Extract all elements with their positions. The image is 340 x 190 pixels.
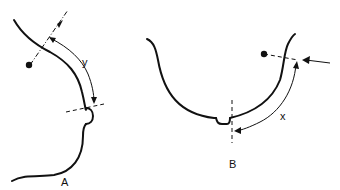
panel-a-reference-line bbox=[30, 10, 68, 65]
panel-a-arc-arrowhead-bottom bbox=[91, 97, 97, 104]
panel-a-profile-upper bbox=[14, 20, 86, 110]
panel-b-label: B bbox=[229, 158, 236, 170]
panel-a-nub bbox=[86, 108, 93, 124]
panel-b-arc-arrowhead-bottom bbox=[234, 127, 241, 134]
panel-b-inward-arrow-shaft bbox=[306, 60, 330, 63]
panel-b-dimension-arc bbox=[236, 64, 296, 131]
panel-a: y A bbox=[12, 10, 104, 188]
panel-b-outline-left bbox=[147, 39, 216, 118]
panel-a-reference-dot bbox=[26, 62, 32, 68]
panel-b-nub bbox=[216, 118, 230, 124]
panel-b-outline-right bbox=[230, 34, 295, 118]
panel-a-profile-lower bbox=[12, 124, 86, 181]
panel-b-arc-arrowhead-top bbox=[293, 61, 299, 69]
panel-b-reference-dot bbox=[261, 51, 267, 57]
panel-a-measure-label: y bbox=[82, 56, 88, 68]
panel-b-measure-label: x bbox=[280, 110, 286, 122]
panel-a-arc-arrowhead-top bbox=[49, 37, 56, 43]
panel-b-reference-line bbox=[264, 54, 298, 60]
panel-b: x B bbox=[147, 34, 330, 170]
panel-a-label: A bbox=[61, 176, 69, 188]
diagram: y A x B bbox=[0, 0, 340, 190]
panel-b-inward-arrowhead bbox=[302, 56, 310, 64]
